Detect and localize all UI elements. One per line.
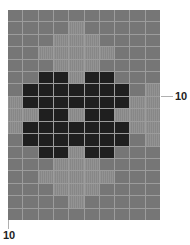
grid-cell — [54, 159, 68, 170]
grid-cell — [39, 47, 53, 58]
grid-cell — [54, 10, 68, 21]
grid-cell — [85, 109, 99, 120]
grid-cell — [85, 35, 99, 46]
grid-cell — [146, 47, 160, 58]
grid-cell — [100, 196, 114, 207]
grid-cell — [115, 184, 129, 195]
grid-cell — [85, 60, 99, 71]
grid-cell — [130, 171, 144, 182]
grid-cell — [146, 134, 160, 145]
grid-cell — [100, 159, 114, 170]
grid-cell — [115, 35, 129, 46]
grid-cell — [100, 97, 114, 108]
grid-cell — [69, 72, 83, 83]
grid-cell — [8, 10, 22, 21]
grid-cell — [130, 134, 144, 145]
grid-cell — [23, 209, 37, 220]
grid-cell — [8, 22, 22, 33]
grid-cell — [54, 134, 68, 145]
grid-cell — [130, 159, 144, 170]
grid-cell — [8, 97, 22, 108]
grid-cell — [115, 72, 129, 83]
grid-cell — [146, 84, 160, 95]
grid-cell — [39, 122, 53, 133]
grid-cell — [146, 97, 160, 108]
grid-cell — [54, 196, 68, 207]
grid-cell — [115, 84, 129, 95]
grid-cell — [85, 159, 99, 170]
pixel-grid — [8, 10, 160, 220]
grid-cell — [115, 122, 129, 133]
grid-cell — [23, 147, 37, 158]
grid-cell — [69, 109, 83, 120]
grid-cell — [85, 184, 99, 195]
grid-cell — [85, 171, 99, 182]
grid-cell — [100, 84, 114, 95]
grid-cell — [39, 147, 53, 158]
grid-cell — [54, 122, 68, 133]
grid-cell — [54, 35, 68, 46]
grid-cell — [100, 134, 114, 145]
grid-cell — [115, 97, 129, 108]
grid-cell — [115, 171, 129, 182]
grid-cell — [69, 60, 83, 71]
grid-cell — [85, 196, 99, 207]
grid-cell — [85, 147, 99, 158]
grid-cell — [146, 147, 160, 158]
grid-cell — [8, 209, 22, 220]
grid-cell — [69, 147, 83, 158]
grid-cell — [69, 171, 83, 182]
grid-cell — [130, 147, 144, 158]
grid-cell — [39, 209, 53, 220]
grid-cell — [39, 184, 53, 195]
grid-cell — [130, 10, 144, 21]
grid-cell — [146, 171, 160, 182]
grid-cell — [69, 122, 83, 133]
grid-cell — [100, 22, 114, 33]
grid-cell — [54, 97, 68, 108]
grid-cell — [23, 196, 37, 207]
grid-cell — [146, 196, 160, 207]
grid-cell — [146, 209, 160, 220]
grid-cell — [8, 196, 22, 207]
grid-cell — [39, 171, 53, 182]
grid-cell — [115, 10, 129, 21]
grid-cell — [39, 22, 53, 33]
grid-cell — [39, 35, 53, 46]
grid-cell — [23, 171, 37, 182]
grid-cell — [130, 209, 144, 220]
grid-cell — [54, 171, 68, 182]
grid-cell — [23, 84, 37, 95]
grid-cell — [85, 22, 99, 33]
grid-cell — [130, 35, 144, 46]
grid-cell — [146, 122, 160, 133]
grid-cell — [115, 147, 129, 158]
grid-cell — [130, 22, 144, 33]
grid-cell — [69, 134, 83, 145]
grid-cell — [8, 171, 22, 182]
grid-cell — [8, 134, 22, 145]
grid-cell — [39, 84, 53, 95]
grid-cell — [8, 122, 22, 133]
grid-cell — [39, 97, 53, 108]
grid-cell — [146, 22, 160, 33]
grid-cell — [146, 159, 160, 170]
grid-cell — [8, 147, 22, 158]
grid-cell — [100, 209, 114, 220]
grid-cell — [146, 60, 160, 71]
grid-cell — [100, 171, 114, 182]
grid-cell — [85, 84, 99, 95]
grid-cell — [115, 196, 129, 207]
grid-cell — [146, 72, 160, 83]
grid-cell — [85, 97, 99, 108]
grid-cell — [54, 147, 68, 158]
grid-cell — [54, 209, 68, 220]
grid-cell — [130, 122, 144, 133]
grid-cell — [8, 47, 22, 58]
y-axis-label: 10 — [175, 91, 187, 102]
grid-cell — [115, 109, 129, 120]
grid-cell — [54, 60, 68, 71]
grid-cell — [100, 72, 114, 83]
grid-cell — [23, 159, 37, 170]
grid-cell — [39, 10, 53, 21]
